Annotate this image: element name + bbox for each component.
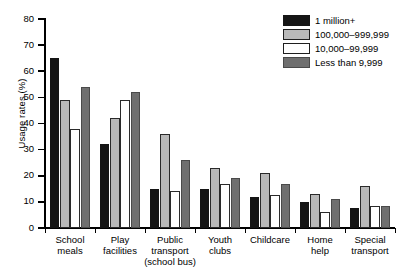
y-axis-tick-label: 40 [0,117,34,128]
bar [320,212,330,228]
x-axis-tick-mark [45,228,46,233]
bar-chart: Usage rates (%) 01020304050607080 School… [0,0,401,277]
y-axis-tick-mark [38,44,44,46]
bar [150,189,160,228]
bar [110,118,120,228]
legend-swatch [283,57,310,68]
legend-swatch [283,29,310,40]
bar [350,208,360,228]
y-axis-tick-mark [38,227,44,229]
bar [160,134,170,228]
x-axis-tick-mark [95,228,96,233]
bar [381,206,391,228]
y-axis-tick-mark [38,175,44,177]
bar [281,184,291,228]
bar [120,100,130,228]
x-axis-tick-mark [295,228,296,233]
bar [131,92,141,228]
x-axis-category-label-line: Special [334,234,401,245]
chart-legend: 1 million+100,000–999,99910,000–99,999Le… [283,13,389,70]
y-axis-tick-mark [38,70,44,72]
y-axis-tick-label: 0 [0,222,34,233]
legend-item: 1 million+ [283,13,389,27]
bar [70,129,80,228]
bar [220,184,230,228]
legend-label: Less than 9,999 [315,57,383,68]
bar [300,202,310,228]
bar [231,178,241,228]
y-axis-tick-label: 70 [0,39,34,50]
legend-item: 10,000–99,999 [283,41,389,55]
x-axis-category-label-line: transport [334,245,401,256]
y-axis-tick-mark [38,18,44,20]
y-axis-tick-mark [38,123,44,125]
bar [210,168,220,228]
x-axis-tick-mark [345,228,346,233]
bar [260,173,270,228]
y-axis-tick-mark [38,97,44,99]
y-axis-tick-mark [38,201,44,203]
y-axis-tick-label: 20 [0,169,34,180]
legend-swatch [283,15,310,26]
y-axis-tick-label: 30 [0,143,34,154]
y-axis-tick-mark [38,149,44,151]
legend-item: 100,000–999,999 [283,27,389,41]
x-axis-category-label: Specialtransport [334,234,401,256]
bar [100,144,110,228]
y-axis-tick-label: 60 [0,65,34,76]
legend-label: 10,000–99,999 [315,43,378,54]
legend-label: 1 million+ [315,15,355,26]
bar [200,189,210,228]
bar [360,186,370,228]
bar [310,194,320,228]
legend-label: 100,000–999,999 [315,29,389,40]
bar [250,197,260,228]
bar [170,191,180,228]
y-axis-tick-label: 10 [0,195,34,206]
x-axis-category-label-line: (school bus) [134,256,206,267]
bar [331,199,341,228]
x-axis-category-label-line: clubs [184,245,256,256]
bar [60,100,70,228]
bar [181,160,191,228]
x-axis-tick-mark [395,228,396,233]
y-axis-tick-label: 80 [0,13,34,24]
x-axis-tick-mark [195,228,196,233]
x-axis-tick-mark [245,228,246,233]
legend-swatch [283,43,310,54]
bar [270,195,280,228]
bar [370,206,380,228]
y-axis-tick-label: 50 [0,91,34,102]
legend-item: Less than 9,999 [283,56,389,70]
bar [50,58,60,228]
x-axis-tick-mark [145,228,146,233]
bar [81,87,91,228]
